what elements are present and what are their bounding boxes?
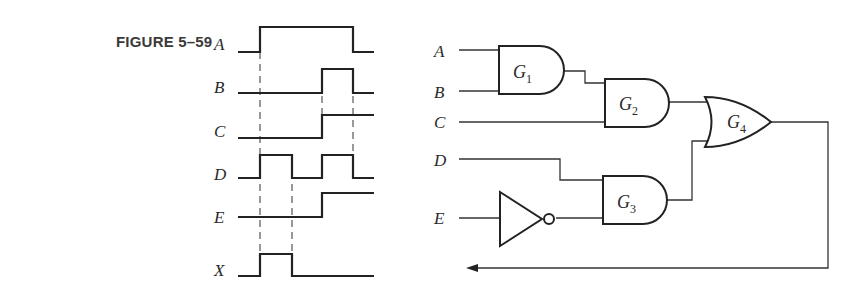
figure-canvas: A B C D E X A B C D E <box>0 0 864 288</box>
input-label-a: A <box>433 42 445 61</box>
signal-label-b: B <box>214 78 225 97</box>
not-gate <box>500 192 542 246</box>
waveform-e <box>238 193 374 217</box>
input-label-e: E <box>433 209 445 228</box>
wire-g3-g4 <box>667 141 710 200</box>
waveform-x <box>238 254 374 276</box>
input-label-c: C <box>434 113 446 132</box>
inverter-bubble-icon <box>544 214 554 224</box>
logic-circuit: A B C D E G1 G2 G3 G4 <box>433 42 828 272</box>
signal-label-d: D <box>213 165 227 184</box>
and-gate-g1 <box>499 46 564 94</box>
wire-d <box>459 159 603 180</box>
waveform-a <box>238 27 374 52</box>
input-label-b: B <box>434 83 445 102</box>
signal-label-e: E <box>213 208 225 227</box>
wire-g1-g2 <box>563 71 605 83</box>
signal-label-c: C <box>214 122 226 141</box>
signal-label-x: X <box>213 261 225 280</box>
waveform-c <box>238 115 374 138</box>
and-gate-g3 <box>603 176 667 224</box>
output-arrow-icon <box>466 264 478 272</box>
input-label-d: D <box>433 151 447 170</box>
and-gate-g2 <box>605 79 669 127</box>
waveform-d <box>238 155 374 178</box>
timing-diagram: A B C D E X <box>213 27 374 280</box>
waveform-b <box>238 69 374 93</box>
signal-label-a: A <box>213 35 225 54</box>
